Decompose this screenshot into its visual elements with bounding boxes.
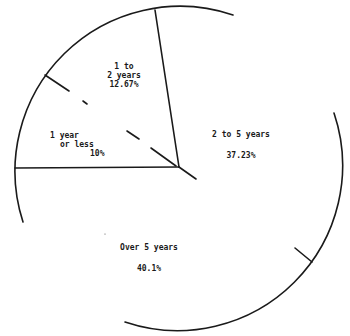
label-line: 1 year: [46, 131, 118, 140]
radius-left: [15, 167, 179, 168]
label-line: or less: [46, 140, 118, 149]
slice-label-2-to-5-years: 2 to 5 years 37.23%: [196, 130, 286, 160]
circle-arc-left-top: [15, 6, 233, 222]
slice-value: 40.1%: [104, 264, 194, 273]
label-line: Over 5 years: [104, 243, 194, 252]
slice-label-1-to-2-years: 1 to 2 years 12.67%: [88, 62, 160, 89]
pie-chart-drawing: [0, 0, 350, 336]
label-line: 2 to 5 years: [196, 130, 286, 139]
slice-value: 12.67%: [88, 80, 160, 89]
radius-stub: [179, 167, 196, 179]
label-line: 1 to: [88, 62, 160, 71]
label-line: 2 years: [88, 71, 160, 80]
tick-right: [295, 248, 312, 262]
slice-label-1-year-or-less: 1 year or less 10%: [46, 131, 118, 158]
slice-value: 37.23%: [196, 151, 286, 160]
slice-label-over-5-years: Over 5 years 40.1%: [104, 243, 194, 273]
slice-value: 10%: [46, 149, 118, 158]
